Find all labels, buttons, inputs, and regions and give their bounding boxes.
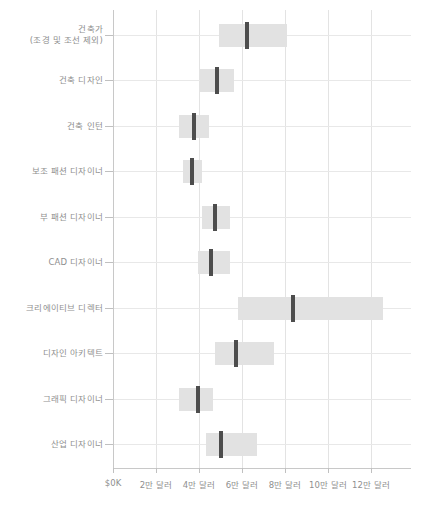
x-axis-tick-60k (242, 468, 243, 473)
x-axis-tick-80k (285, 468, 286, 473)
median-marker-architectural-design (215, 67, 219, 94)
gridline-horizontal-row-5 (113, 262, 411, 263)
gridline-horizontal-row-1 (113, 80, 411, 81)
x-axis-tick-label-80k: 8만 달러 (269, 478, 302, 490)
x-axis-tick-label-120k: 12만 달러 (352, 478, 390, 490)
x-axis-tick-label-60k: 6만 달러 (226, 478, 259, 490)
gridline-horizontal-row-4 (113, 217, 411, 218)
y-axis-tick-3 (105, 171, 113, 172)
median-marker-cad-designer (209, 249, 213, 276)
salary-range-chart: 건축가 (조경 및 조선 제외) 건축 디자인 건축 인턴 보조 패션 디자이너… (0, 0, 421, 513)
x-axis-tick-label-40k: 4만 달러 (183, 478, 216, 490)
x-axis-tick-label-0: $0K (105, 478, 122, 488)
median-marker-graphic-designer (196, 386, 200, 413)
median-marker-industrial-designer (219, 431, 223, 458)
range-bar-design-architect (215, 342, 274, 365)
category-label-industrial-designer: 산업 디자이너 (3, 439, 103, 450)
median-marker-creative-director (291, 295, 295, 322)
y-axis-tick-0 (105, 35, 113, 36)
range-bar-creative-director (238, 297, 382, 320)
median-marker-associate-fashion-designer (213, 204, 217, 231)
x-axis-tick-100k (328, 468, 329, 473)
x-axis-tick-20k (156, 468, 157, 473)
range-bar-cad-designer (198, 251, 230, 274)
category-label-associate-fashion-designer: 부 패션 디자이너 (3, 212, 103, 223)
y-axis-tick-9 (105, 444, 113, 445)
gridline-horizontal-row-8 (113, 399, 411, 400)
median-marker-assistant-fashion-designer (190, 158, 194, 185)
category-label-design-architect: 디자인 아키텍트 (3, 348, 103, 359)
median-marker-architect (245, 22, 249, 49)
y-axis-tick-2 (105, 126, 113, 127)
x-axis-line (113, 468, 411, 469)
category-label-architecture-intern: 건축 인턴 (3, 121, 103, 132)
x-axis-tick-40k (199, 468, 200, 473)
x-axis-tick-120k (371, 468, 372, 473)
range-bar-architect (219, 24, 287, 47)
category-label-cad-designer: CAD 디자이너 (3, 257, 103, 268)
y-axis-tick-1 (105, 80, 113, 81)
x-axis-tick-label-20k: 2만 달러 (140, 478, 173, 490)
y-axis-tick-8 (105, 399, 113, 400)
category-label-graphic-designer: 그래픽 디자이너 (3, 394, 103, 405)
gridline-horizontal-row-2 (113, 126, 411, 127)
category-label-assistant-fashion-designer: 보조 패션 디자이너 (3, 166, 103, 177)
gridline-horizontal-row-3 (113, 171, 411, 172)
y-axis-tick-6 (105, 308, 113, 309)
x-axis-tick-0 (113, 468, 114, 473)
x-axis-tick-label-100k: 10만 달러 (309, 478, 347, 490)
range-bar-industrial-designer (206, 433, 257, 456)
median-marker-design-architect (234, 340, 238, 367)
median-marker-architecture-intern (192, 113, 196, 140)
y-axis-tick-7 (105, 353, 113, 354)
gridline-horizontal-row-9 (113, 444, 411, 445)
y-axis-tick-5 (105, 262, 113, 263)
y-axis-tick-4 (105, 217, 113, 218)
category-label-architectural-design: 건축 디자인 (3, 75, 103, 86)
category-label-creative-director: 크리에이티브 디렉터 (3, 303, 103, 314)
category-label-architect: 건축가 (조경 및 조선 제외) (3, 24, 103, 46)
y-axis-line (113, 10, 114, 469)
